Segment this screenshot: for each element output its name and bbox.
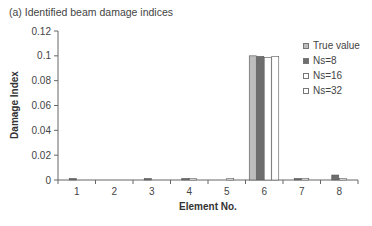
y-axis-title: Damage Index xyxy=(9,71,20,139)
legend-swatch-icon xyxy=(303,43,309,49)
bar xyxy=(272,56,279,180)
x-tick-label: 6 xyxy=(261,186,267,197)
x-tick-label: 8 xyxy=(336,186,342,197)
x-tick-label: 5 xyxy=(224,186,230,197)
bar xyxy=(332,175,339,180)
bar xyxy=(339,179,346,181)
legend: True value Ns=8 Ns=16 Ns=32 xyxy=(303,38,360,98)
bar xyxy=(189,179,196,181)
legend-item-ns32: Ns=32 xyxy=(303,83,360,98)
y-tick-label: 0.08 xyxy=(32,75,52,86)
legend-label: Ns=16 xyxy=(313,70,342,81)
legend-item-ns16: Ns=16 xyxy=(303,68,360,83)
legend-swatch-icon xyxy=(303,58,309,64)
bar-chart: 00.020.040.060.080.10.12 12345678 Damage… xyxy=(0,0,372,226)
x-tick-label: 2 xyxy=(111,186,117,197)
bar xyxy=(182,179,189,181)
legend-item-true-value: True value xyxy=(303,38,360,53)
bar xyxy=(227,179,234,181)
y-tick-label: 0.12 xyxy=(32,26,52,37)
y-tick-label: 0 xyxy=(45,175,51,186)
bar xyxy=(302,179,309,181)
x-axis: 12345678 xyxy=(58,180,358,197)
y-tick-label: 0.04 xyxy=(32,125,52,136)
legend-label: True value xyxy=(313,40,360,51)
x-tick-label: 3 xyxy=(149,186,155,197)
legend-swatch-icon xyxy=(303,73,309,79)
y-tick-label: 0.02 xyxy=(32,150,52,161)
bar xyxy=(257,56,264,180)
bar xyxy=(144,179,151,181)
legend-swatch-icon xyxy=(303,88,309,94)
x-tick-label: 1 xyxy=(74,186,80,197)
x-axis-title: Element No. xyxy=(179,201,237,212)
bar xyxy=(249,56,256,180)
y-tick-label: 0.1 xyxy=(37,50,51,61)
legend-label: Ns=32 xyxy=(313,85,342,96)
y-axis: 00.020.040.060.080.10.12 xyxy=(32,26,58,186)
x-tick-label: 7 xyxy=(299,186,305,197)
legend-item-ns8: Ns=8 xyxy=(303,53,360,68)
bar xyxy=(294,179,301,181)
legend-label: Ns=8 xyxy=(313,55,337,66)
x-tick-label: 4 xyxy=(186,186,192,197)
y-tick-label: 0.06 xyxy=(32,100,52,111)
bar xyxy=(264,58,271,180)
bar xyxy=(69,179,76,181)
